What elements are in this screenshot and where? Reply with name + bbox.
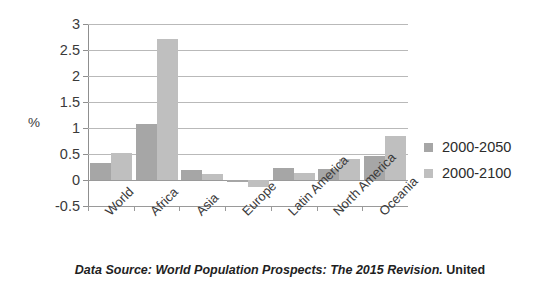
caption-organization-name: United — [446, 263, 485, 277]
bar-group — [88, 24, 134, 206]
bar — [111, 153, 132, 180]
bar — [227, 180, 248, 182]
y-axis-tick-label: 3 — [72, 17, 80, 32]
bar — [90, 163, 111, 180]
caption-source-text: Data Source: World Population Prospects:… — [75, 263, 443, 277]
y-axis-tick-label: -0.5 — [55, 199, 80, 214]
y-axis-tick-label: 0 — [72, 173, 80, 188]
bar — [202, 174, 223, 180]
y-axis-title: % — [28, 115, 40, 130]
bar-group — [225, 24, 271, 206]
bar — [273, 168, 294, 180]
y-axis-tick-label: 0.5 — [60, 147, 80, 162]
legend-swatch-icon — [424, 169, 433, 178]
bar — [136, 124, 157, 180]
bar-group — [179, 24, 225, 206]
legend-label: 2000-2050 — [442, 140, 511, 155]
bar — [294, 173, 315, 180]
bar — [181, 170, 202, 180]
y-axis-tick-label: 1.5 — [60, 95, 80, 110]
y-axis-tick-label: 1 — [72, 121, 80, 136]
bar — [157, 39, 178, 180]
bar-group — [134, 24, 180, 206]
legend-swatch-icon — [424, 143, 433, 152]
bar-group — [271, 24, 317, 206]
legend-item[interactable]: 2000-2050 — [424, 139, 511, 155]
y-axis-tick-label: 2.5 — [60, 43, 80, 58]
chart-caption: Data Source: World Population Prospects:… — [0, 263, 560, 277]
y-axis-tick-label: 2 — [72, 69, 80, 84]
chart-legend: 2000-20502000-2100 — [424, 139, 511, 191]
legend-label: 2000-2100 — [442, 166, 511, 181]
population-growth-chart: % 32.521.510.50-0.5 WorldAfricaAsiaEurop… — [0, 0, 560, 289]
legend-item[interactable]: 2000-2100 — [424, 165, 511, 181]
